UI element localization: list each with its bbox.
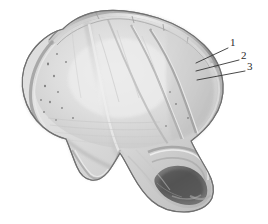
bone-illustration — [0, 0, 268, 224]
bone-body-group — [22, 10, 223, 212]
foramen — [187, 117, 189, 119]
callout-label-1: 1 — [230, 37, 236, 48]
foramen — [53, 75, 55, 77]
callout-label-3: 3 — [247, 61, 253, 72]
anatomical-figure: 1 2 3 — [0, 0, 268, 224]
foramen — [61, 107, 63, 109]
foramen — [47, 63, 49, 66]
foramen — [165, 125, 166, 127]
foramen — [169, 91, 170, 93]
foramen — [40, 99, 42, 101]
foramen — [49, 101, 51, 103]
foramen — [72, 117, 74, 119]
foramen — [65, 61, 67, 63]
foramen — [55, 119, 56, 121]
foramen — [57, 91, 59, 93]
foramen — [175, 103, 177, 105]
foramen — [43, 111, 45, 113]
foramen — [56, 53, 58, 55]
callout-label-2: 2 — [241, 50, 247, 61]
foramen — [44, 85, 46, 88]
